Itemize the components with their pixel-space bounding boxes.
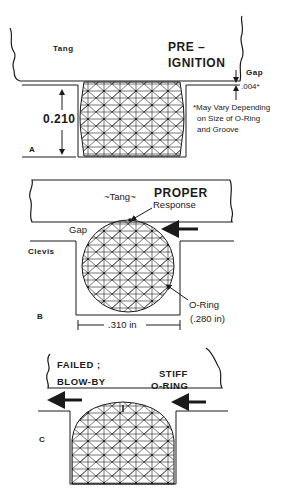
footnote-line2: on Size of O-Ring	[197, 115, 260, 123]
panel-letter-c: C	[39, 436, 45, 444]
height-dimension-a: 0.210	[43, 113, 76, 125]
panel-a	[10, 16, 243, 157]
gap-label-a: Gap	[246, 69, 263, 77]
width-dimension-b: .310 in	[108, 320, 137, 330]
state-label-b-line1: PROPER	[154, 187, 208, 199]
tang-label-b: ~Tang~	[104, 192, 136, 202]
state-label-a-line2: IGNITION	[168, 57, 225, 69]
state-label-b-line2: Response	[153, 200, 196, 210]
tang-a	[10, 16, 243, 81]
oring-b	[82, 220, 174, 312]
cause-label-c-line1: STIFF	[159, 369, 188, 379]
gap-label-b: Gap	[69, 225, 87, 235]
footnote-line3: and Groove	[197, 126, 239, 134]
clevis-label-b: Clevis	[28, 248, 55, 256]
gap-value-a: .004*	[241, 83, 260, 91]
tang-label-a: Tang	[53, 45, 74, 53]
oring-a	[80, 82, 184, 156]
cause-label-c-line2: O-RING	[151, 381, 188, 391]
state-label-c-line1: FAILED ;	[57, 360, 101, 370]
state-label-c-line2: BLOW-BY	[57, 377, 106, 387]
panel-letter-b: B	[37, 313, 43, 321]
oring-c	[72, 402, 174, 484]
oring-size-b: (.280 in)	[190, 314, 225, 324]
state-label-a-line1: PRE –	[168, 41, 205, 53]
oring-label-b: O-Ring	[189, 300, 219, 310]
panel-letter-a: A	[29, 146, 35, 154]
footnote-line1: *May Vary Depending	[193, 104, 270, 112]
